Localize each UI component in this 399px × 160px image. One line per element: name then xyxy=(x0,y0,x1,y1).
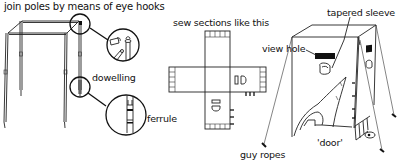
pole-frame xyxy=(4,21,82,128)
label-dowelling: dowelling xyxy=(92,73,136,83)
label-view-hole: view hole xyxy=(262,44,305,54)
ferrule-magnifier xyxy=(70,77,146,135)
assembled-hide xyxy=(262,17,396,152)
diagram-canvas: join poles by means of eye hooks dowelli… xyxy=(0,0,399,160)
label-ferrule: ferrule xyxy=(147,114,177,124)
caption-sew-sections: sew sections like this xyxy=(173,18,269,28)
label-guy-ropes: guy ropes xyxy=(240,150,285,160)
label-tapered-sleeve: tapered sleeve xyxy=(327,8,395,18)
label-door: 'door' xyxy=(317,138,343,148)
sewing-pattern xyxy=(169,31,266,129)
caption-join-poles: join poles by means of eye hooks xyxy=(4,2,165,12)
